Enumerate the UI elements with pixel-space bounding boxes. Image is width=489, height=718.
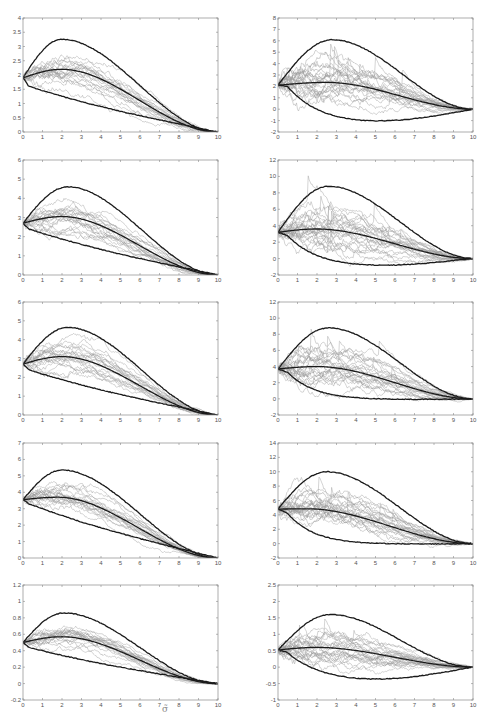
x-tick-label: 4 xyxy=(99,134,103,140)
chart-panel-r2c2: 012345678910-2024681012 xyxy=(258,154,483,293)
y-tick-label: 0 xyxy=(273,541,277,547)
x-tick-label: 3 xyxy=(335,134,339,140)
x-tick-label: 4 xyxy=(354,702,358,708)
x-tick-label: 9 xyxy=(197,277,201,283)
x-tick-label: 7 xyxy=(413,417,417,423)
y-tick-label: 1.2 xyxy=(13,582,22,588)
x-tick-label: 3 xyxy=(335,417,339,423)
x-tick-label: 3 xyxy=(80,134,84,140)
y-tick-label: 0.2 xyxy=(13,664,22,670)
x-tick-label: 10 xyxy=(215,417,222,423)
x-tick-label: 0 xyxy=(21,134,25,140)
y-tick-label: 4 xyxy=(18,195,22,201)
y-tick-label: 2 xyxy=(18,72,22,78)
x-tick-label: 2 xyxy=(60,560,64,566)
y-tick-label: 3 xyxy=(18,215,22,221)
y-tick-label: 3 xyxy=(273,72,277,78)
y-tick-label: 2 xyxy=(18,374,22,380)
x-tick-label: 10 xyxy=(215,277,222,283)
y-tick-label: 4 xyxy=(18,337,22,343)
x-tick-label: 4 xyxy=(354,417,358,423)
x-tick-label: 6 xyxy=(393,560,397,566)
y-tick-label: -2 xyxy=(271,129,277,135)
x-tick-label: 4 xyxy=(99,702,103,708)
x-tick-label: 8 xyxy=(177,134,181,140)
y-tick-label: 1 xyxy=(18,393,22,399)
x-tick-label: 6 xyxy=(138,560,142,566)
x-tick-label: 9 xyxy=(452,417,456,423)
x-tick-label: 9 xyxy=(452,277,456,283)
y-tick-label: 0.6 xyxy=(13,631,22,637)
x-tick-label: 0 xyxy=(21,417,25,423)
x-tick-label: 2 xyxy=(315,277,319,283)
x-tick-label: 3 xyxy=(335,560,339,566)
x-tick-label: 9 xyxy=(452,134,456,140)
x-tick-label: 1 xyxy=(41,417,45,423)
y-tick-label: 0.4 xyxy=(13,648,22,654)
x-tick-label: 4 xyxy=(354,277,358,283)
x-tick-label: 7 xyxy=(413,277,417,283)
y-tick-label: 4 xyxy=(273,223,277,229)
chart-panel-r5c2: 012345678910-1-0.500.511.522.5 xyxy=(258,579,483,718)
y-tick-label: 1 xyxy=(18,539,22,545)
x-tick-label: 6 xyxy=(138,417,142,423)
y-tick-label: -0.2 xyxy=(11,697,22,703)
x-tick-label: 10 xyxy=(215,134,222,140)
y-tick-label: 6 xyxy=(273,206,277,212)
y-tick-label: 1 xyxy=(18,253,22,259)
y-tick-label: 2.5 xyxy=(13,58,22,64)
x-tick-label: 7 xyxy=(413,560,417,566)
y-tick-label: 6 xyxy=(273,38,277,44)
x-tick-label: 5 xyxy=(119,277,123,283)
y-tick-label: 8 xyxy=(273,190,277,196)
x-tick-label: 2 xyxy=(315,560,319,566)
x-tick-label: 8 xyxy=(432,417,436,423)
upper-envelope-line xyxy=(23,613,218,684)
chart-svg: 0123456789100123456 xyxy=(3,154,228,289)
x-tick-label: 3 xyxy=(80,560,84,566)
y-tick-label: 0 xyxy=(273,256,277,262)
y-tick-label: 3 xyxy=(18,44,22,50)
y-tick-label: 8 xyxy=(273,331,277,337)
x-tick-label: 9 xyxy=(197,134,201,140)
chart-panel-r5c1: 012345678910-0.200.20.40.60.811.2 xyxy=(3,579,228,718)
chart-svg: 0123456789100123456 xyxy=(3,296,228,429)
x-tick-label: 7 xyxy=(413,134,417,140)
x-tick-label: 5 xyxy=(374,277,378,283)
y-tick-label: 5 xyxy=(18,176,22,182)
x-tick-label: 1 xyxy=(41,702,45,708)
chart-panel-r1c1: 01234567891000.511.522.533.54 xyxy=(3,12,228,150)
y-tick-label: 3 xyxy=(18,506,22,512)
y-tick-label: 2 xyxy=(273,239,277,245)
y-tick-label: 0.8 xyxy=(13,615,22,621)
x-tick-label: 4 xyxy=(99,277,103,283)
y-tick-label: 12 xyxy=(269,454,276,460)
y-tick-label: 0 xyxy=(273,664,277,670)
x-tick-label: 4 xyxy=(99,560,103,566)
y-tick-label: 12 xyxy=(269,157,276,163)
x-tick-label: 10 xyxy=(470,134,477,140)
x-tick-label: 2 xyxy=(60,702,64,708)
x-tick-label: 1 xyxy=(296,702,300,708)
x-tick-label: 6 xyxy=(138,702,142,708)
chart-panel-r3c1: 0123456789100123456 xyxy=(3,296,228,433)
x-tick-label: 0 xyxy=(276,134,280,140)
y-tick-label: 2 xyxy=(273,380,277,386)
chart-svg: 012345678910-1-0.500.511.522.5 xyxy=(258,579,483,714)
x-tick-label: 0 xyxy=(276,702,280,708)
y-tick-label: 0.5 xyxy=(268,648,277,654)
y-tick-label: 6 xyxy=(18,157,22,163)
x-tick-label: 10 xyxy=(470,702,477,708)
y-tick-label: 6 xyxy=(18,299,22,305)
axes-frame xyxy=(278,585,473,700)
x-tick-label: 5 xyxy=(374,560,378,566)
y-tick-label: 1.5 xyxy=(13,86,22,92)
y-tick-label: 4 xyxy=(273,364,277,370)
y-tick-label: 2 xyxy=(18,234,22,240)
x-tick-label: 5 xyxy=(374,134,378,140)
x-tick-label: 6 xyxy=(393,417,397,423)
x-tick-label: 9 xyxy=(452,560,456,566)
x-tick-label: 8 xyxy=(432,277,436,283)
x-tick-label: 8 xyxy=(177,417,181,423)
x-tick-label: 8 xyxy=(432,134,436,140)
